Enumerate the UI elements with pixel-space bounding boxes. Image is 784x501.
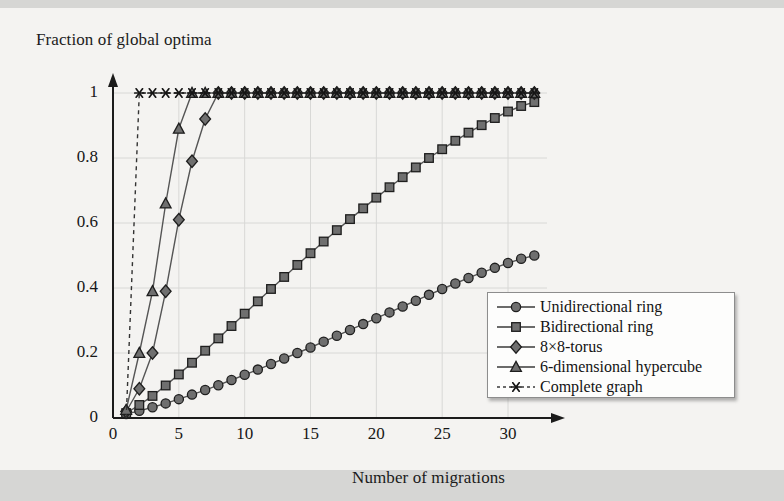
data-point (346, 215, 355, 224)
data-point (161, 399, 170, 408)
data-point (214, 334, 223, 343)
data-point (135, 401, 144, 410)
page-background: Fraction of global optima Number of migr… (0, 0, 784, 501)
legend-marker-circle-icon (494, 298, 538, 316)
series-bidirectional-ring (122, 98, 539, 418)
data-point (464, 128, 473, 137)
data-point (385, 308, 394, 317)
data-point (187, 155, 198, 167)
x-tick-label: 20 (351, 424, 401, 444)
data-point (134, 383, 145, 395)
data-point (214, 381, 223, 390)
figure-sheet: Fraction of global optima Number of migr… (0, 8, 784, 470)
data-point (293, 261, 302, 270)
legend-item: 6-dimensional hypercube (494, 357, 734, 377)
legend-label: 6-dimensional hypercube (540, 358, 702, 376)
x-tick-label: 30 (483, 424, 533, 444)
data-point (306, 249, 315, 258)
legend-label: Bidirectional ring (540, 318, 653, 336)
data-point (280, 273, 289, 282)
data-point (490, 263, 499, 272)
data-point (267, 285, 276, 294)
x-tick-label: 5 (154, 424, 204, 444)
legend-item: 8×8-torus (494, 337, 734, 357)
data-point (451, 279, 460, 288)
chart-plot-area (0, 8, 784, 470)
data-point (160, 198, 171, 208)
legend-label: 8×8-torus (540, 338, 602, 356)
y-tick-label: 1 (52, 82, 98, 102)
x-tick-label: 25 (417, 424, 467, 444)
legend-marker-triangle-icon (494, 358, 538, 376)
legend-item: Complete graph (494, 377, 734, 397)
data-point (491, 114, 500, 123)
legend-label: Complete graph (540, 378, 643, 396)
data-point (200, 113, 211, 125)
data-point (201, 385, 210, 394)
x-tick-label: 10 (220, 424, 270, 444)
data-point (147, 286, 158, 296)
data-point (253, 365, 262, 374)
data-series-layer (121, 87, 540, 419)
legend-marker-star-icon (494, 378, 538, 396)
data-point (503, 258, 512, 267)
series-complete-graph (126, 89, 539, 418)
data-point (517, 102, 526, 111)
data-point (530, 251, 539, 260)
data-point (345, 325, 354, 334)
data-point (147, 347, 158, 359)
data-point (438, 284, 447, 293)
data-point (398, 302, 407, 311)
data-point (451, 136, 460, 145)
data-point (175, 370, 184, 379)
data-point (332, 331, 341, 340)
data-point (306, 343, 315, 352)
data-point (412, 163, 421, 172)
data-point (464, 273, 473, 282)
data-point (477, 121, 486, 130)
data-point (188, 358, 197, 367)
data-point (227, 322, 236, 331)
x-axis-title: Number of migrations (352, 468, 505, 488)
data-point (425, 154, 434, 163)
data-point (161, 381, 170, 390)
data-point (240, 309, 249, 318)
x-tick-label: 15 (286, 424, 336, 444)
legend-label: Unidirectional ring (540, 298, 662, 316)
data-point (173, 214, 184, 226)
data-point (148, 403, 157, 412)
data-point (134, 347, 145, 357)
data-point (187, 390, 196, 399)
gridlines (113, 91, 547, 418)
data-point (160, 285, 171, 297)
data-point (280, 354, 289, 363)
series-unidirectional-ring (122, 251, 539, 419)
data-point (319, 337, 328, 346)
data-point (201, 346, 210, 355)
data-point (227, 375, 236, 384)
data-point (372, 193, 381, 202)
data-point (359, 319, 368, 328)
y-tick-label: 0.4 (52, 277, 98, 297)
data-point (411, 296, 420, 305)
legend-marker-diamond-icon (494, 338, 538, 356)
data-point (293, 348, 302, 357)
data-point (504, 107, 513, 116)
legend-item: Unidirectional ring (494, 297, 734, 317)
data-point (254, 297, 263, 306)
data-point (424, 290, 433, 299)
data-point (372, 314, 381, 323)
data-point (398, 173, 407, 182)
data-point (385, 183, 394, 192)
series-6-dimensional-hypercube (121, 87, 540, 414)
data-point (359, 204, 368, 213)
y-tick-label: 0.8 (52, 147, 98, 167)
data-point (173, 123, 184, 133)
data-point (517, 254, 526, 263)
legend-marker-square-icon (494, 318, 538, 336)
y-tick-label: 0.6 (52, 212, 98, 232)
data-point (174, 395, 183, 404)
chart-figure: Fraction of global optima Number of migr… (0, 8, 784, 470)
data-point (438, 145, 447, 154)
data-point (148, 392, 157, 401)
